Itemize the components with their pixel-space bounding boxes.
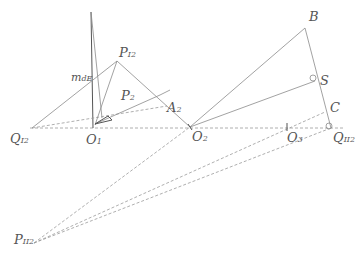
- line-O2-B: [190, 28, 305, 127]
- label-m-dE: mdE: [71, 72, 92, 83]
- label-O-2: O2: [192, 130, 208, 143]
- line-PII2-O2: [34, 127, 190, 243]
- line-PII2-C: [34, 112, 325, 243]
- label-Q-II2: QII2: [333, 131, 355, 144]
- line-PII2-QII2: [34, 128, 331, 243]
- line-P2-ext: [160, 90, 170, 95]
- label-P-II2: PII2: [14, 233, 34, 246]
- label-C: C: [330, 101, 340, 114]
- label-O-1: O1: [86, 133, 102, 146]
- label-B: B: [309, 10, 319, 23]
- marker-S: [310, 75, 316, 81]
- label-S: S: [320, 74, 329, 87]
- label-P-2: P2: [121, 89, 135, 102]
- label-Q-I2: QI2: [10, 132, 29, 145]
- diagram-canvas: [0, 0, 364, 266]
- label-A-2: A2: [167, 101, 181, 114]
- label-P-I2: PI2: [119, 46, 136, 59]
- marker-QII2: [326, 123, 332, 129]
- line-O2-S: [190, 81, 315, 127]
- line-QI2-A2: [32, 106, 167, 128]
- label-O-3: O3: [287, 131, 303, 144]
